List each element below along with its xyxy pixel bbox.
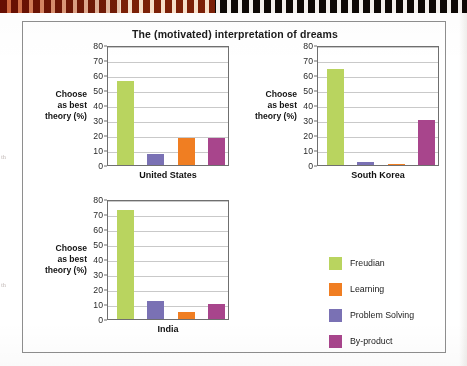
y-axis-title-line1: Choose xyxy=(241,89,297,100)
page-edge-warm-tint-2 xyxy=(0,0,120,13)
y-tick-label-india-10: 10 xyxy=(87,300,103,310)
panel-label-india: India xyxy=(107,324,229,334)
legend-swatch-problem-solving xyxy=(329,309,342,322)
y-axis-title-line3: theory (%) xyxy=(31,265,87,276)
margin-ghost-text: th xyxy=(1,153,5,161)
y-tick-label-united-states-70: 70 xyxy=(87,56,103,66)
bar-united-states-by-product xyxy=(208,138,225,165)
legend-label-by-product: By-product xyxy=(350,336,393,346)
legend-item-learning: Learning xyxy=(329,276,447,302)
legend-item-freudian: Freudian xyxy=(329,250,447,276)
chart-panel-india: Chooseas besttheory (%)01020304050607080… xyxy=(31,200,231,342)
figure-title: The (motivated) interpretation of dreams xyxy=(23,28,447,40)
gridline-south-korea-70 xyxy=(318,62,438,63)
legend-item-problem-solving: Problem Solving xyxy=(329,302,447,328)
y-tick-label-south-korea-30: 30 xyxy=(297,116,313,126)
y-axis-title-india: Chooseas besttheory (%) xyxy=(31,243,87,276)
y-axis-title-line2: as best xyxy=(31,254,87,265)
y-tick-label-united-states-10: 10 xyxy=(87,146,103,156)
panel-label-south-korea: South Korea xyxy=(317,170,439,180)
y-tick-label-india-60: 60 xyxy=(87,225,103,235)
legend-item-by-product: By-product xyxy=(329,328,447,354)
bar-united-states-problem-solving xyxy=(147,154,164,165)
figure-container: The (motivated) interpretation of dreams… xyxy=(22,21,446,353)
legend-swatch-freudian xyxy=(329,257,342,270)
y-tick-label-india-20: 20 xyxy=(87,285,103,295)
chart-panel-united-states: Chooseas besttheory (%)01020304050607080… xyxy=(31,46,231,188)
y-tick-label-south-korea-10: 10 xyxy=(297,146,313,156)
y-tick-label-united-states-0: 0 xyxy=(87,161,103,171)
y-tick-label-south-korea-70: 70 xyxy=(297,56,313,66)
y-axis-title-line3: theory (%) xyxy=(31,111,87,122)
y-axis-title-united-states: Chooseas besttheory (%) xyxy=(31,89,87,122)
gridline-south-korea-80 xyxy=(318,47,438,48)
y-axis-title-line2: as best xyxy=(31,100,87,111)
y-tick-label-united-states-20: 20 xyxy=(87,131,103,141)
gridline-united-states-60 xyxy=(108,77,228,78)
y-tick-label-india-50: 50 xyxy=(87,240,103,250)
legend-label-problem-solving: Problem Solving xyxy=(350,310,414,320)
bar-south-korea-by-product xyxy=(418,120,435,165)
y-tick-label-south-korea-20: 20 xyxy=(297,131,313,141)
y-tick-label-india-70: 70 xyxy=(87,210,103,220)
plot-area-india xyxy=(107,200,229,320)
y-tick-label-south-korea-40: 40 xyxy=(297,101,313,111)
plot-area-united-states xyxy=(107,46,229,166)
right-page-margin xyxy=(459,13,467,366)
y-tick-label-south-korea-0: 0 xyxy=(297,161,313,171)
bar-india-problem-solving xyxy=(147,301,164,319)
bar-united-states-freudian xyxy=(117,81,134,165)
chart-legend: FreudianLearningProblem SolvingBy-produc… xyxy=(329,250,447,354)
y-tick-label-south-korea-60: 60 xyxy=(297,71,313,81)
y-axis-title-line1: Choose xyxy=(31,243,87,254)
bar-south-korea-freudian xyxy=(327,69,344,165)
y-tick-label-united-states-60: 60 xyxy=(87,71,103,81)
y-tick-label-india-40: 40 xyxy=(87,255,103,265)
scanned-page-edge xyxy=(0,0,467,13)
y-tick-label-united-states-40: 40 xyxy=(87,101,103,111)
bar-india-freudian xyxy=(117,210,134,320)
bar-united-states-learning xyxy=(178,138,195,165)
y-tick-label-united-states-30: 30 xyxy=(87,116,103,126)
bar-india-learning xyxy=(178,312,195,320)
bar-south-korea-learning xyxy=(388,164,405,166)
y-axis-title-line1: Choose xyxy=(31,89,87,100)
left-page-margin: th th xyxy=(0,13,19,366)
y-tick-label-india-80: 80 xyxy=(87,195,103,205)
y-tick-label-south-korea-80: 80 xyxy=(297,41,313,51)
bar-india-by-product xyxy=(208,304,225,319)
y-axis-title-south-korea: Chooseas besttheory (%) xyxy=(241,89,297,122)
y-axis-title-line2: as best xyxy=(241,100,297,111)
chart-panel-south-korea: Chooseas besttheory (%)01020304050607080… xyxy=(241,46,441,188)
legend-label-learning: Learning xyxy=(350,284,384,294)
legend-swatch-learning xyxy=(329,283,342,296)
y-tick-label-united-states-50: 50 xyxy=(87,86,103,96)
bar-south-korea-problem-solving xyxy=(357,162,374,165)
y-tick-label-india-0: 0 xyxy=(87,315,103,325)
gridline-united-states-70 xyxy=(108,62,228,63)
legend-swatch-by-product xyxy=(329,335,342,348)
y-tick-label-united-states-80: 80 xyxy=(87,41,103,51)
y-tick-label-india-30: 30 xyxy=(87,270,103,280)
gridline-india-80 xyxy=(108,201,228,202)
plot-area-south-korea xyxy=(317,46,439,166)
panel-label-united-states: United States xyxy=(107,170,229,180)
gridline-united-states-80 xyxy=(108,47,228,48)
margin-ghost-text: th xyxy=(1,281,5,289)
legend-label-freudian: Freudian xyxy=(350,258,385,268)
y-axis-title-line3: theory (%) xyxy=(241,111,297,122)
y-tick-label-south-korea-50: 50 xyxy=(297,86,313,96)
